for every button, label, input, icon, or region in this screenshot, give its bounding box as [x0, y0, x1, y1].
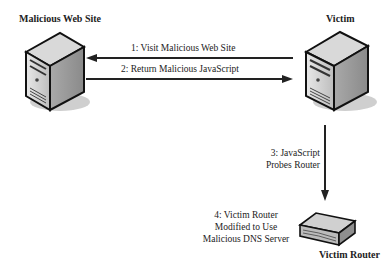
victim-title: Victim: [326, 13, 355, 24]
malicious-site-title: Malicious Web Site: [19, 13, 101, 24]
edge-label-return: 2: Return Malicious JavaScript: [121, 63, 239, 75]
arrow-return: [86, 75, 293, 83]
edge-label-probe-line1: 3: JavaScript: [256, 147, 320, 159]
arrow-probe: [321, 125, 329, 201]
edge-label-probe: 3: JavaScript Probes Router: [256, 147, 320, 171]
victim-router-icon: [300, 213, 355, 245]
diagram-canvas: [0, 0, 386, 269]
arrow-visit: [86, 54, 293, 62]
edge-label-probe-line2: Probes Router: [256, 159, 320, 171]
step4-annotation: 4: Victim Router Modified to Use Malicio…: [196, 209, 296, 245]
step4-line1: 4: Victim Router: [196, 209, 296, 221]
victim-server-icon: [306, 32, 377, 111]
step4-line2: Modified to Use: [196, 221, 296, 233]
step4-line3: Malicious DNS Server: [196, 233, 296, 245]
malicious-server-icon: [26, 33, 90, 111]
edge-label-visit: 1: Visit Malicious Web Site: [131, 42, 235, 54]
victim-router-title: Victim Router: [319, 249, 380, 260]
